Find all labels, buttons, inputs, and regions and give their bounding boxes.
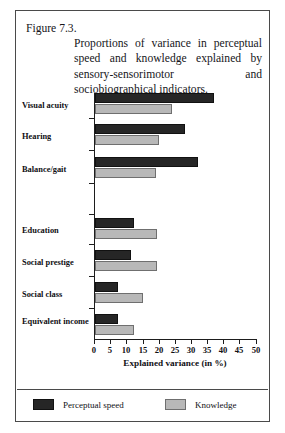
legend-swatch-perceptual-speed xyxy=(33,399,54,410)
axis-tick-group-balance-gait xyxy=(89,183,95,184)
x-axis-title: Explained variance (in %) xyxy=(94,358,256,368)
legend-entry-perceptual-speed: Perceptual speed xyxy=(33,399,124,410)
bar-equivalent-income-perceptual-speed xyxy=(95,314,118,324)
axis-tick-group-visual-acuity xyxy=(89,118,95,119)
x-tick-45 xyxy=(239,339,240,344)
bar-social-prestige-knowledge xyxy=(95,261,157,271)
bar-balance-gait-perceptual-speed xyxy=(95,157,198,167)
x-tick-label-45: 45 xyxy=(230,345,248,355)
x-tick-50 xyxy=(256,339,257,344)
x-tick-label-10: 10 xyxy=(117,345,135,355)
bar-social-prestige-perceptual-speed xyxy=(95,250,131,260)
axis-tick-group-social-prestige xyxy=(89,276,95,277)
x-tick-20 xyxy=(159,339,160,344)
bar-hearing-knowledge xyxy=(95,135,159,145)
bar-social-class-perceptual-speed xyxy=(95,282,118,292)
category-label-balance-gait: Balance/gait xyxy=(22,165,92,175)
axis-tick-group-hearing xyxy=(89,150,95,151)
axis-tick-group-separator xyxy=(89,214,95,215)
bar-visual-acuity-knowledge xyxy=(95,104,172,114)
x-tick-40 xyxy=(223,339,224,344)
figure-caption: Figure 7.3. Proportions of variance in p… xyxy=(26,21,262,97)
bar-education-perceptual-speed xyxy=(95,218,134,228)
legend-label-perceptual-speed: Perceptual speed xyxy=(63,400,124,410)
x-tick-15 xyxy=(143,339,144,344)
chart-legend: Perceptual speed Knowledge xyxy=(17,389,268,422)
x-tick-30 xyxy=(191,339,192,344)
bar-equivalent-income-knowledge xyxy=(95,325,134,335)
legend-swatch-knowledge xyxy=(165,399,186,410)
axis-tick-group-social-class xyxy=(89,308,95,309)
bar-education-knowledge xyxy=(95,229,157,239)
category-label-equivalent-income: Equivalent income xyxy=(22,317,92,327)
x-tick-5 xyxy=(110,339,111,344)
bar-social-class-knowledge xyxy=(95,293,143,303)
category-label-hearing: Hearing xyxy=(22,132,92,142)
axis-tick-group-education xyxy=(89,244,95,245)
category-label-social-class: Social class xyxy=(22,290,92,300)
legend-entry-knowledge: Knowledge xyxy=(165,399,237,410)
category-label-education: Education xyxy=(22,226,92,236)
legend-label-knowledge: Knowledge xyxy=(195,400,237,410)
x-tick-label-50: 50 xyxy=(247,345,265,355)
bar-visual-acuity-perceptual-speed xyxy=(95,93,214,103)
figure-caption-text: Proportions of variance in perceptual sp… xyxy=(74,36,262,97)
category-label-visual-acuity: Visual acuity xyxy=(22,101,92,111)
x-tick-10 xyxy=(126,339,127,344)
figure-caption-label: Figure 7.3. xyxy=(26,22,77,35)
x-tick-0 xyxy=(94,339,95,344)
x-tick-35 xyxy=(207,339,208,344)
figure-frame: Figure 7.3. Proportions of variance in p… xyxy=(15,10,270,422)
bar-balance-gait-knowledge xyxy=(95,168,156,178)
category-label-social-prestige: Social prestige xyxy=(22,258,92,268)
chart-plot-area: Visual acuity Hearing Balance/gait Educa… xyxy=(16,89,269,364)
bar-hearing-perceptual-speed xyxy=(95,124,185,134)
x-tick-25 xyxy=(175,339,176,344)
